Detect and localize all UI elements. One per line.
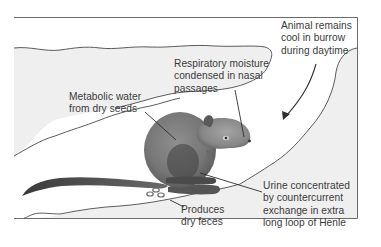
- rat-lower-leg: [166, 177, 216, 185]
- rat-haunch-shade: [167, 144, 199, 180]
- label-line: condensed in nasal: [174, 70, 269, 82]
- label-line: Respiratory moisture: [174, 58, 269, 70]
- label-respiratory-moisture: Respiratory moisture condensed in nasal …: [174, 58, 269, 95]
- label-line: Urine concentrated: [263, 180, 350, 192]
- label-animal-in-burrow: Animal remains cool in burrow during day…: [281, 20, 352, 57]
- label-line: from dry seeds: [69, 103, 141, 115]
- label-urine-concentrated: Urine concentrated by countercurrent exc…: [263, 180, 350, 230]
- label-line: during daytime: [281, 45, 352, 57]
- rat-nose: [248, 140, 251, 143]
- feces-pellets: [147, 188, 164, 197]
- label-line: by countercurrent: [263, 192, 350, 204]
- kangaroo-rat: [22, 112, 251, 196]
- label-line: cool in burrow: [281, 32, 352, 44]
- label-line: dry feces: [181, 216, 224, 228]
- label-metabolic-water: Metabolic water from dry seeds: [69, 91, 141, 116]
- rat-tail: [22, 177, 168, 196]
- label-line: exchange in extra: [263, 205, 350, 217]
- burrow-diagram: Respiratory moisture condensed in nasal …: [0, 0, 381, 247]
- label-line: passages: [174, 83, 269, 95]
- label-line: long loop of Henle: [263, 217, 350, 229]
- burrow-arrow: [282, 64, 316, 120]
- label-line: Metabolic water: [69, 91, 141, 103]
- label-dry-feces: Produces dry feces: [181, 204, 224, 229]
- label-line: Produces: [181, 204, 224, 216]
- label-line: Animal remains: [281, 20, 352, 32]
